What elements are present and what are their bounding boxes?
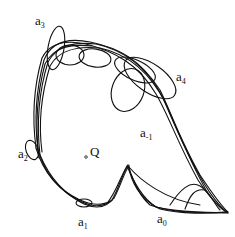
label-a2: a2 <box>18 147 28 163</box>
label-a0: a0 <box>157 212 167 228</box>
orbit-diagram <box>0 0 235 237</box>
orbit-curves <box>23 25 228 213</box>
label-a1: a1 <box>78 215 88 231</box>
label-a-1: a-1 <box>140 126 152 142</box>
label-q: Q <box>90 145 99 158</box>
label-a4: a4 <box>176 70 186 86</box>
center-point-q <box>85 156 88 159</box>
label-a3: a3 <box>35 14 45 30</box>
